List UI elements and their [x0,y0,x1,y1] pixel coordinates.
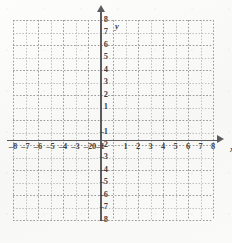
y-tick-label: –8 [92,216,108,224]
gridline-horizontal [13,183,213,184]
gridline-vertical [213,20,214,220]
gridline-horizontal [13,83,213,84]
y-tick-label: 7 [92,28,108,36]
y-tick-label: –1 [92,128,108,136]
gridline-horizontal [13,20,213,21]
gridline-horizontal [13,120,213,121]
y-tick-label: 3 [92,78,108,86]
x-axis-line [7,140,218,142]
x-axis-label: x [230,145,232,154]
y-tick-label: 8 [92,16,108,24]
y-tick-label: 5 [92,53,108,61]
y-tick-label: –6 [92,191,108,199]
y-tick-label: –7 [92,203,108,211]
y-tick-label: 4 [92,66,108,74]
gridline-horizontal [13,220,213,221]
y-tick-label: 6 [92,41,108,49]
gridline-horizontal [13,195,213,196]
gridline-horizontal [13,108,213,109]
y-axis-label: y [115,22,119,31]
y-tick-label: 1 [92,103,108,111]
gridline-horizontal [13,45,213,46]
gridline-horizontal [13,208,213,209]
gridline-horizontal [13,70,213,71]
y-tick-label: 2 [92,91,108,99]
gridline-horizontal [13,95,213,96]
gridline-horizontal [13,58,213,59]
gridline-horizontal [13,33,213,34]
gridline-horizontal [13,133,213,134]
x-tick-label: 8 [205,143,221,151]
y-axis-arrow-icon [97,5,105,12]
origin-label: 0 [92,143,96,151]
gridline-horizontal [13,158,213,159]
gridline-horizontal [13,170,213,171]
coordinate-plane: –8–7–6–5–4–3–2–112345678 87654321–1–2–3–… [13,20,213,220]
y-tick-label: –5 [92,178,108,186]
y-tick-label: –3 [92,153,108,161]
y-tick-label: –4 [92,166,108,174]
